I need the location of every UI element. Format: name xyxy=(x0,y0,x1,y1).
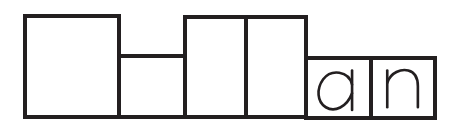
letter-box-3-letter xyxy=(187,19,188,20)
letter-box-2-short-empty xyxy=(117,54,187,119)
letter-n-glyph xyxy=(373,60,433,116)
letter-box-4-tall-empty xyxy=(244,15,308,119)
word-shape-diagram: a n xyxy=(0,0,463,140)
letter-box-1-tall-empty xyxy=(23,14,121,119)
letter-box-3-tall-empty xyxy=(183,15,248,119)
letter-box-1-letter xyxy=(27,18,28,19)
letter-a-glyph xyxy=(308,60,369,116)
letter-box-4-letter xyxy=(248,19,249,20)
letter-box-5-short-a: a xyxy=(304,56,373,120)
letter-box-2-letter xyxy=(121,58,122,59)
letter-box-6-short-n: n xyxy=(369,56,437,120)
